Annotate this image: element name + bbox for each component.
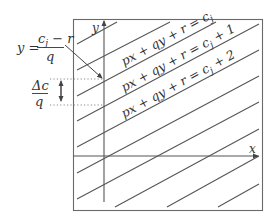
x-axis-label: x bbox=[249, 142, 256, 156]
level-set-diagram: y x px + qy + r = cj px + qy + r = cj + … bbox=[0, 0, 276, 224]
svg-text:q: q bbox=[35, 94, 43, 109]
svg-text:Δc: Δc bbox=[31, 78, 49, 93]
svg-text:cj − r: cj − r bbox=[38, 31, 74, 48]
level-line bbox=[167, 156, 259, 207]
spacing-annotation: Δc q bbox=[31, 78, 61, 109]
intercept-annotation: y = cj − r q bbox=[16, 31, 102, 78]
level-line bbox=[218, 184, 259, 207]
y-axis-label: y bbox=[91, 21, 99, 35]
intercept-pointer-arrow bbox=[65, 45, 102, 78]
svg-text:y =: y = bbox=[16, 40, 39, 55]
svg-text:q: q bbox=[46, 49, 54, 64]
